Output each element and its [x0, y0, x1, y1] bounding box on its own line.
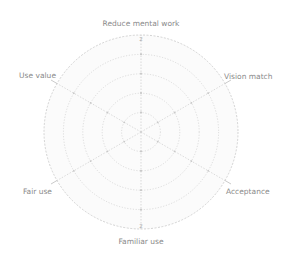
axis-label-reduce-mental-work: Reduce mental work: [103, 19, 181, 28]
tick-label-bottom: 2: [139, 223, 143, 229]
axis-label-vision-match: Vision match: [224, 72, 273, 81]
axis-label-fair-use: Fair use: [23, 187, 52, 196]
tick-label-top: 2: [139, 36, 143, 42]
radar-chart: 2 2 Reduce mental work Vision match Acce…: [0, 0, 286, 258]
axis-label-familiar-use: Familiar use: [118, 237, 164, 246]
axis-label-acceptance: Acceptance: [226, 187, 270, 196]
axis-label-use-value: Use value: [19, 71, 56, 80]
